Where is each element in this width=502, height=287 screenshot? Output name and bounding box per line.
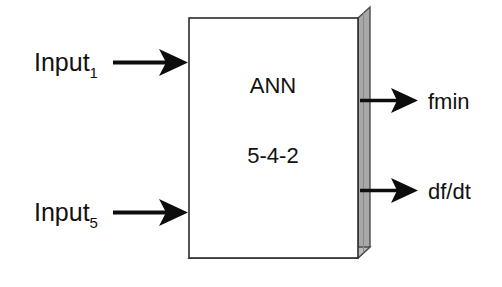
input-5-group: Input5 <box>34 198 188 231</box>
diagram-canvas: ANN 5-4-2 Input1 Input5 fmin <box>0 0 502 287</box>
output-dfdt-label: df/dt <box>428 179 471 204</box>
input-1-label-base: Input <box>34 48 90 76</box>
input-1-label-subscript: 1 <box>90 64 98 81</box>
ann-block: ANN 5-4-2 <box>189 7 370 258</box>
block-title: ANN <box>250 73 296 98</box>
output-fmin-label: fmin <box>428 89 470 114</box>
ann-block-diagram: ANN 5-4-2 Input1 Input5 fmin <box>0 0 502 287</box>
output-dfdt-group: df/dt <box>360 178 471 204</box>
input-1-group: Input1 <box>34 48 188 81</box>
input-1-label: Input1 <box>34 48 98 81</box>
block-architecture-label: 5-4-2 <box>247 143 298 168</box>
input-5-label-base: Input <box>34 198 90 226</box>
input-5-label-subscript: 5 <box>90 214 98 231</box>
input-5-label: Input5 <box>34 198 98 231</box>
output-fmin-group: fmin <box>360 88 470 114</box>
block-front-face <box>189 18 358 258</box>
